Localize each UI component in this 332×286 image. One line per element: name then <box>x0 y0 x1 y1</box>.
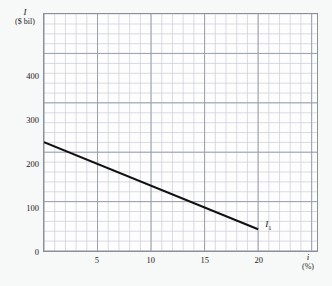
investment-demand-chart: I ($ bil) i (%) 0100200300400 5101520 I1 <box>0 0 332 286</box>
curve-label-subscript: 1 <box>268 224 271 231</box>
x-tick-label: 20 <box>244 255 274 265</box>
plot-area <box>43 13 318 252</box>
minor-gridlines <box>44 14 317 251</box>
curve-label: I1 <box>265 219 271 231</box>
x-tick-label: 5 <box>82 255 112 265</box>
grid-and-curve <box>44 14 317 251</box>
x-tick-label: 15 <box>190 255 220 265</box>
x-tick-label: 10 <box>136 255 166 265</box>
